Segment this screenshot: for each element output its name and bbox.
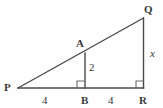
right-angle-marker-at-R <box>136 81 144 88</box>
segment-PQ <box>18 18 144 88</box>
right-angle-marker-at-B <box>77 81 85 88</box>
figure-canvas <box>0 0 163 108</box>
geometry-figure: P B R Q A 4 4 2 x <box>0 0 163 108</box>
